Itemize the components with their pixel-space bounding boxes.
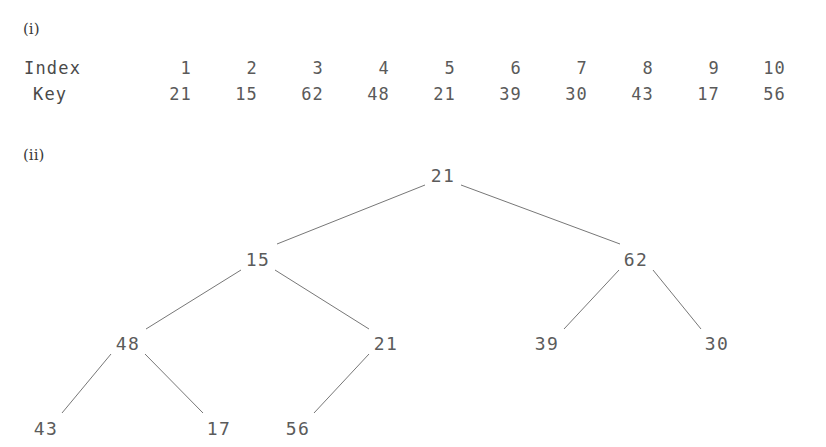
edge-21-56: [314, 354, 369, 413]
edge-62-39: [564, 270, 619, 329]
tree-edge-layer: [0, 0, 826, 447]
edge-15-21: [275, 270, 369, 329]
tree-node-level3-a: 43: [26, 418, 66, 439]
tree-node-level1-right: 62: [616, 249, 656, 270]
tree-node-level3-b: 17: [199, 418, 239, 439]
edge-root-62: [461, 185, 620, 244]
edge-62-30: [653, 270, 701, 329]
tree-node-level2-c: 39: [527, 333, 567, 354]
tree-node-level2-a: 48: [108, 333, 148, 354]
edge-48-43: [62, 354, 111, 413]
tree-node-level2-b: 21: [366, 333, 406, 354]
edge-15-48: [146, 270, 241, 329]
binary-tree-diagram: 21156248213930431756: [0, 0, 826, 447]
figure-page: (i) Index Key 12121536244852163973084391…: [0, 0, 826, 447]
tree-node-level2-d: 30: [697, 333, 737, 354]
edge-48-17: [145, 354, 203, 413]
tree-node-root: 21: [423, 165, 463, 186]
edge-root-15: [277, 185, 425, 244]
tree-node-level1-left: 15: [238, 249, 278, 270]
tree-node-level3-c: 56: [278, 418, 318, 439]
